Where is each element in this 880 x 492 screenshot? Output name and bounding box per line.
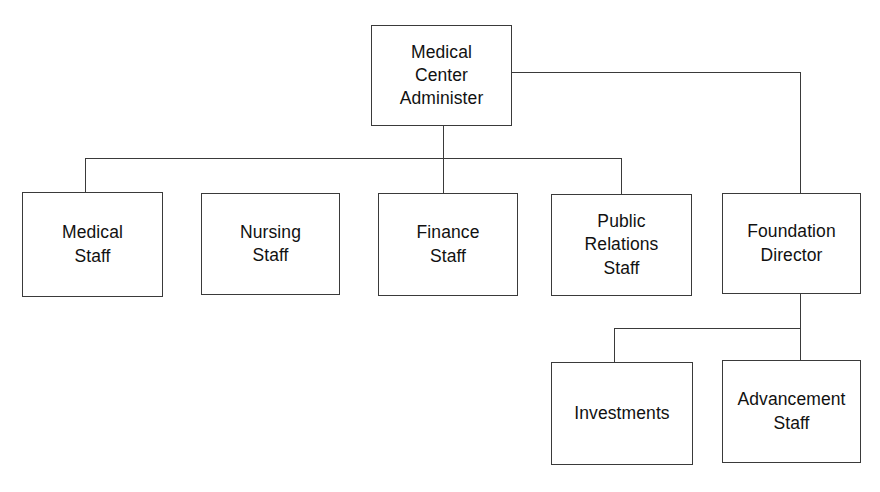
node-advancement-staff[interactable]: Advancement Staff — [722, 360, 861, 463]
node-label: Medical Center Administer — [400, 41, 484, 110]
node-label: Nursing Staff — [240, 221, 301, 267]
node-label: Advancement Staff — [737, 388, 845, 434]
node-label: Investments — [574, 402, 669, 425]
node-label: Public Relations Staff — [585, 210, 659, 279]
node-medical-center-administer[interactable]: Medical Center Administer — [371, 25, 512, 126]
node-medical-staff[interactable]: Medical Staff — [22, 192, 163, 297]
node-label: Medical Staff — [62, 221, 123, 267]
node-foundation-director[interactable]: Foundation Director — [722, 193, 861, 294]
edge-foundation-to-investments — [615, 329, 801, 363]
node-finance-staff[interactable]: Finance Staff — [378, 193, 518, 296]
node-label: Foundation Director — [747, 220, 836, 266]
node-investments[interactable]: Investments — [551, 362, 693, 465]
node-nursing-staff[interactable]: Nursing Staff — [201, 193, 340, 295]
org-chart: Medical Center Administer Medical Staff … — [0, 0, 880, 492]
edge-root-to-foundation-director — [512, 73, 801, 194]
node-label: Finance Staff — [417, 221, 480, 267]
node-public-relations-staff[interactable]: Public Relations Staff — [551, 194, 692, 296]
